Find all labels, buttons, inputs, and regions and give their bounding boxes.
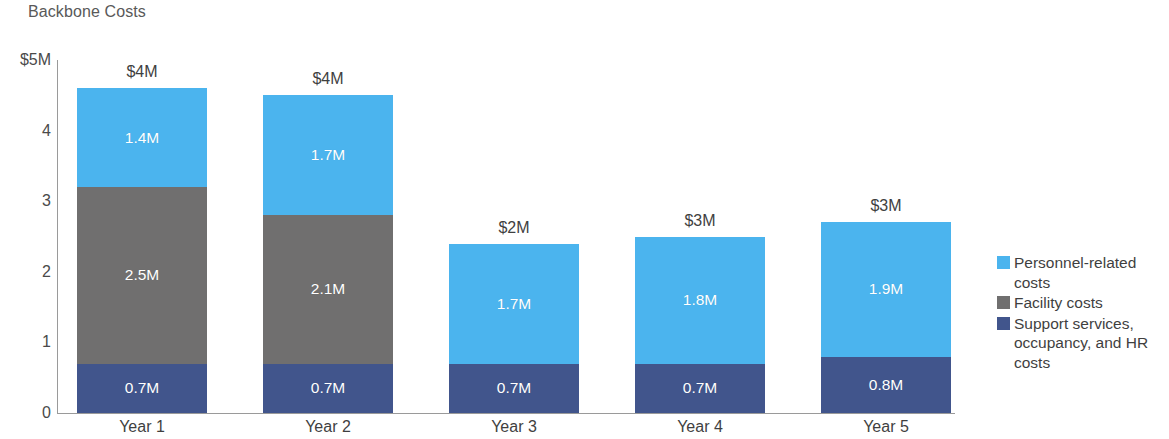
legend-item[interactable]: Personnel-related costs (997, 253, 1169, 292)
bar-segment-value-label: 0.7M (125, 379, 159, 397)
legend-color-swatch (997, 296, 1010, 309)
legend-color-swatch (997, 256, 1010, 269)
bar-group[interactable]: 0.7M1.8M$3M (635, 237, 765, 414)
chart-legend: Personnel-related costsFacility costsSup… (997, 253, 1169, 373)
bar-segment[interactable]: 1.7M (263, 95, 393, 215)
y-axis-tick-1: 1 (42, 333, 51, 351)
bar-segment-value-label: 1.7M (497, 295, 531, 313)
stacked-bar[interactable]: 0.7M2.1M1.7M (263, 95, 393, 413)
bar-segment-value-label: 2.5M (125, 266, 159, 284)
bar-segment[interactable]: 0.8M (821, 357, 951, 413)
bar-segment-value-label: 1.9M (869, 280, 903, 298)
bar-segment[interactable]: 1.4M (77, 88, 207, 187)
stacked-bar[interactable]: 0.7M2.5M1.4M (77, 88, 207, 413)
legend-item-label: Personnel-related costs (1014, 253, 1169, 292)
x-axis-line (57, 413, 955, 414)
stacked-bar[interactable]: 0.8M1.9M (821, 222, 951, 413)
x-axis-label-4: Year 4 (635, 418, 765, 436)
y-axis-tick-5: $5M (20, 51, 51, 69)
bar-segment[interactable]: 2.5M (77, 187, 207, 364)
bar-segment-value-label: 1.8M (683, 291, 717, 309)
y-axis-tick-labels: $5M43210 (0, 0, 51, 439)
bar-segment[interactable]: 1.7M (449, 244, 579, 364)
bar-segment-value-label: 0.7M (311, 379, 345, 397)
x-axis-label-3: Year 3 (449, 418, 579, 436)
legend-color-swatch (997, 317, 1010, 330)
legend-item[interactable]: Facility costs (997, 293, 1169, 313)
bar-segment[interactable]: 0.7M (263, 364, 393, 413)
bar-total-label: $2M (449, 219, 579, 237)
x-axis-label-5: Year 5 (821, 418, 951, 436)
bar-segment[interactable]: 0.7M (449, 364, 579, 413)
bar-segment[interactable]: 1.9M (821, 222, 951, 356)
backbone-costs-chart: Backbone Costs $5M43210 0.7M2.5M1.4M$4M0… (0, 0, 1169, 439)
x-axis-label-1: Year 1 (77, 418, 207, 436)
bar-segment-value-label: 0.7M (683, 379, 717, 397)
stacked-bar[interactable]: 0.7M1.8M (635, 237, 765, 414)
bar-segment[interactable]: 1.8M (635, 237, 765, 364)
y-axis-tick-4: 4 (42, 122, 51, 140)
bar-segment-value-label: 1.4M (125, 129, 159, 147)
bar-segment-value-label: 1.7M (311, 146, 345, 164)
bar-segment[interactable]: 0.7M (77, 364, 207, 413)
bar-total-label: $4M (263, 70, 393, 88)
x-axis-label-2: Year 2 (263, 418, 393, 436)
bar-total-label: $3M (821, 197, 951, 215)
bar-group[interactable]: 0.7M2.1M1.7M$4M (263, 95, 393, 413)
bar-segment-value-label: 0.7M (497, 379, 531, 397)
stacked-bar[interactable]: 0.7M1.7M (449, 244, 579, 413)
bar-total-label: $3M (635, 212, 765, 230)
y-axis-tick-3: 3 (42, 192, 51, 210)
legend-item[interactable]: Support services, occupancy, and HR cost… (997, 314, 1169, 373)
bar-group[interactable]: 0.8M1.9M$3M (821, 222, 951, 413)
y-axis-line (57, 60, 58, 414)
bar-segment-value-label: 0.8M (869, 376, 903, 394)
bar-group[interactable]: 0.7M1.7M$2M (449, 244, 579, 413)
bar-group[interactable]: 0.7M2.5M1.4M$4M (77, 88, 207, 413)
bar-segment-value-label: 2.1M (311, 280, 345, 298)
y-axis-tick-2: 2 (42, 263, 51, 281)
bar-total-label: $4M (77, 63, 207, 81)
legend-item-label: Facility costs (1014, 293, 1103, 313)
legend-item-label: Support services, occupancy, and HR cost… (1014, 314, 1169, 373)
bar-segment[interactable]: 2.1M (263, 215, 393, 363)
y-axis-tick-0: 0 (42, 404, 51, 422)
bar-segment[interactable]: 0.7M (635, 364, 765, 413)
